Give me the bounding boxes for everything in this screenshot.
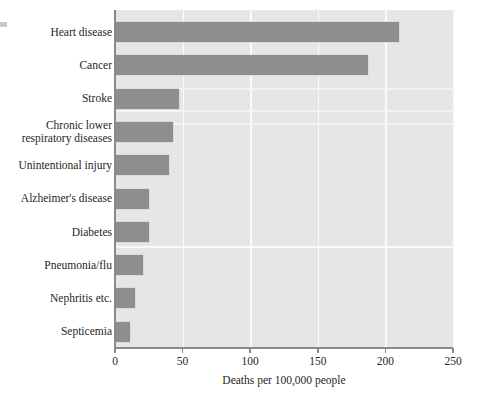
category-label: Stroke <box>4 92 112 105</box>
bar <box>115 155 169 175</box>
x-tick-label: 0 <box>112 355 118 367</box>
bar <box>115 288 135 308</box>
x-tick-label: 50 <box>177 355 189 367</box>
category-label: Heart disease <box>4 26 112 39</box>
bar <box>115 189 149 209</box>
x-axis-title: Deaths per 100,000 people <box>115 374 453 386</box>
x-tick-150 <box>317 348 319 353</box>
category-label: Alzheimer's disease <box>4 192 112 205</box>
x-tick-250 <box>452 348 454 353</box>
bar-chart-figure: Heart diseaseCancerStrokeChronic lower r… <box>0 0 481 402</box>
x-tick-0 <box>114 348 116 353</box>
category-label: Septicemia <box>4 325 112 338</box>
bar <box>115 122 173 142</box>
category-label: Unintentional injury <box>4 159 112 172</box>
bar <box>115 222 149 242</box>
x-tick-100 <box>249 348 251 353</box>
category-label: Nephritis etc. <box>4 292 112 305</box>
bar <box>115 89 179 109</box>
plot-area <box>115 10 453 347</box>
x-tick-label: 200 <box>377 355 394 367</box>
bar <box>115 322 130 342</box>
y-axis-line <box>114 10 116 347</box>
x-tick-label: 250 <box>444 355 461 367</box>
category-label: Cancer <box>4 59 112 72</box>
x-tick-label: 150 <box>309 355 326 367</box>
gridline-250 <box>453 10 455 347</box>
bar-series <box>115 10 453 347</box>
y-axis-category-labels: Heart diseaseCancerStrokeChronic lower r… <box>0 0 112 402</box>
x-tick-200 <box>385 348 387 353</box>
bar <box>115 55 368 75</box>
bar <box>115 22 399 42</box>
category-label: Pneumonia/flu <box>4 259 112 272</box>
category-label: Diabetes <box>4 226 112 239</box>
x-tick-label: 100 <box>242 355 259 367</box>
category-label: Chronic lower respiratory diseases <box>4 119 112 144</box>
x-axis-line <box>114 347 453 349</box>
x-tick-50 <box>182 348 184 353</box>
bar <box>115 255 143 275</box>
